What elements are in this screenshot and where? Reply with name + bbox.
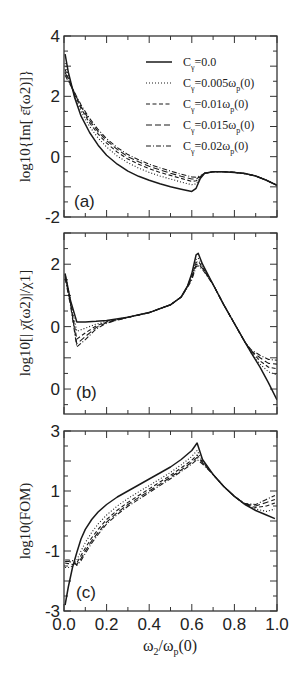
series-line-dotted (65, 258, 277, 375)
y-tick-label: 1 (51, 482, 60, 501)
y-axis-label-c: log10(FOM) (17, 483, 34, 560)
y-tick-label: 2 (51, 87, 60, 106)
legend-label: Cγ=0.005ωp(0) (183, 76, 254, 93)
legend-item: Cγ=0.005ωp(0) (146, 76, 254, 93)
x-tick-label: 0.0 (52, 615, 76, 634)
x-tick-label: 0.4 (137, 615, 161, 634)
panel-label-c: (c) (76, 583, 96, 602)
legend-label: Cγ=0.015ωp(0) (183, 118, 254, 135)
y-tick-label: -1 (45, 542, 60, 561)
y-axis-label-a-text: log10{Im[ ε̄(ω2)]} (17, 70, 34, 183)
legend-label: Cγ=0.02ωp(0) (183, 139, 248, 156)
legend-label: Cγ=0.01ωp(0) (183, 97, 248, 114)
series-line-dashdot (65, 460, 275, 566)
y-axis-label-b-text: log10[| χ̄(ω2)|/χ1] (17, 270, 34, 376)
y-axis-label-c-text: log10(FOM) (17, 483, 34, 560)
x-tick-label: 0.2 (95, 615, 119, 634)
panel-label-b: (b) (76, 383, 97, 402)
series-line-dashed (65, 261, 277, 369)
legend-item: Cγ=0.01ωp(0) (146, 97, 248, 114)
legend-label: Cγ=0.0 (183, 55, 216, 72)
y-tick-label: 4 (51, 27, 60, 46)
plot-frame (64, 431, 277, 611)
x-tick-label: 1.0 (265, 615, 289, 634)
y-axis-label-b: log10[| χ̄(ω2)|/χ1] (17, 270, 34, 376)
y-tick-label: 2 (51, 255, 60, 274)
y-tick-label: 0 (51, 380, 60, 399)
x-axis-label: ω2/ωp(0) (143, 637, 197, 657)
y-tick-label: 0 (51, 318, 60, 337)
x-tick-label: 0.6 (180, 615, 204, 634)
series-line-dashed (65, 455, 275, 565)
series-line-solid (65, 443, 275, 605)
legend-item: Cγ=0.015ωp(0) (146, 118, 254, 135)
legend-item: Cγ=0.02ωp(0) (146, 139, 248, 156)
series-line-longdash (65, 264, 277, 365)
series-line-dashdot (65, 266, 277, 361)
x-tick-label: 0.8 (223, 615, 247, 634)
legend-item: Cγ=0.0 (146, 55, 216, 72)
y-tick-label: 0 (51, 148, 60, 167)
panel-label-a: (a) (74, 192, 95, 211)
y-tick-label: 3 (51, 422, 60, 441)
y-axis-label-a: log10{Im[ ε̄(ω2)]} (17, 70, 34, 183)
legend: Cγ=0.0Cγ=0.005ωp(0)Cγ=0.01ωp(0)Cγ=0.015ω… (146, 55, 254, 156)
series-line-longdash (65, 457, 275, 564)
figure: 420-220031-1-30.00.20.40.60.81.0 (a) (b)… (0, 0, 305, 685)
y-tick-label: -2 (45, 208, 60, 227)
